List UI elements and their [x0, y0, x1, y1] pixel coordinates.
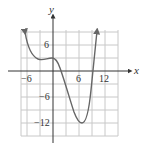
y-tick-neg12: −12 — [34, 117, 50, 128]
x-tick-6: 6 — [76, 73, 81, 84]
function-graph: x y −6 6 12 6 −6 −12 — [0, 0, 144, 152]
x-axis-label: x — [133, 64, 139, 76]
y-tick-neg6: −6 — [39, 91, 50, 102]
x-tick-12: 12 — [99, 73, 109, 84]
y-axis-label: y — [48, 3, 54, 15]
y-tick-6: 6 — [44, 39, 49, 50]
x-tick-neg6: −6 — [21, 73, 32, 84]
